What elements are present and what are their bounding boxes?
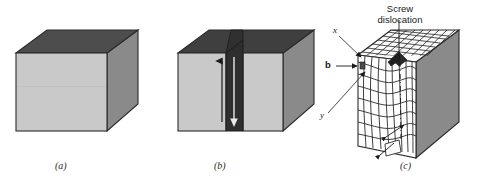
block-b-front-face-left [178,53,226,131]
axis-label-x: x [333,25,337,35]
block-a-front-shade [17,86,106,87]
axis-label-y: y [320,110,324,120]
screw-dislocation-label-line2: dislocation [371,14,429,25]
panel-c-lattice [328,20,459,158]
figure-canvas [0,0,491,185]
block-b-front-face-right [243,53,283,131]
panel-b-block [178,30,314,131]
burgers-vector-label: b [325,59,331,70]
panel-a-block [16,30,138,131]
caption-b: (b) [214,160,226,171]
screw-dislocation-label-line1: Screw [371,3,429,14]
block-a-front-face [16,53,107,131]
caption-c: (c) [400,160,411,171]
caption-a: (a) [55,160,67,171]
screw-dislocation-figure: Screw dislocation x b y (a) (b) (c) [0,0,491,185]
x-axis-leader [339,36,361,57]
screw-dislocation-label: Screw dislocation [371,3,429,25]
burgers-vector-marker [360,62,365,69]
